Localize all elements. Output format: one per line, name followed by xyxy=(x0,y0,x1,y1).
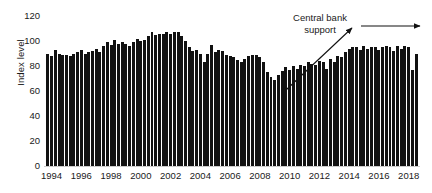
bar xyxy=(385,46,388,166)
bar xyxy=(400,49,403,167)
bar xyxy=(229,56,232,166)
x-axis-ticks: 1994199619982000200220042006200820102012… xyxy=(0,170,432,190)
bar xyxy=(299,65,302,166)
bar xyxy=(221,51,224,166)
bar xyxy=(184,41,187,166)
x-axis-tick-label: 2002 xyxy=(156,170,186,181)
bar xyxy=(292,66,295,166)
bar xyxy=(318,61,321,166)
bar xyxy=(158,34,161,167)
bar xyxy=(415,54,418,167)
bar xyxy=(340,57,343,166)
bar xyxy=(124,44,127,167)
bar xyxy=(366,49,369,167)
bar xyxy=(169,34,172,167)
bar xyxy=(151,32,154,166)
bar xyxy=(247,56,250,166)
bar xyxy=(407,47,410,166)
bar xyxy=(392,51,395,166)
bar xyxy=(50,56,53,166)
bar xyxy=(396,46,399,166)
y-axis-tick-label: 20 xyxy=(16,136,40,146)
bar xyxy=(266,72,269,166)
y-axis-tick-label: 80 xyxy=(16,61,40,71)
y-axis-tick-label: 40 xyxy=(16,111,40,121)
bar xyxy=(84,54,87,167)
bar xyxy=(165,32,168,166)
bar xyxy=(262,62,265,166)
bar xyxy=(314,65,317,166)
annotation-line-2: support xyxy=(277,24,363,36)
bar xyxy=(303,66,306,166)
bar xyxy=(154,35,157,166)
annotation-line-1: Central bank xyxy=(277,12,363,24)
bar xyxy=(61,55,64,166)
bar xyxy=(351,47,354,166)
bar xyxy=(325,69,328,167)
bar xyxy=(177,32,180,166)
bar xyxy=(243,59,246,167)
bar xyxy=(58,54,61,167)
bar xyxy=(87,52,90,166)
x-axis-tick-label: 1994 xyxy=(37,170,67,181)
annotation-label: Central bank support xyxy=(277,12,363,36)
bar xyxy=(273,80,276,166)
bar xyxy=(240,62,243,166)
bar xyxy=(72,54,75,167)
bar xyxy=(359,50,362,166)
bar xyxy=(106,42,109,166)
x-axis-tick-label: 2006 xyxy=(215,170,245,181)
bar xyxy=(322,62,325,166)
x-axis-tick-label: 2008 xyxy=(245,170,275,181)
bar xyxy=(95,49,98,167)
bar xyxy=(199,54,202,167)
bar xyxy=(214,52,217,166)
x-axis-tick-label: 2014 xyxy=(334,170,364,181)
bar xyxy=(288,70,291,166)
bar xyxy=(281,71,284,166)
bar xyxy=(117,44,120,167)
x-axis-line xyxy=(44,166,420,167)
bar xyxy=(251,55,254,166)
bar xyxy=(173,32,176,166)
bar xyxy=(217,50,220,166)
bar xyxy=(113,40,116,166)
bar xyxy=(389,47,392,166)
bar xyxy=(69,56,72,166)
y-axis-tick-label: 60 xyxy=(16,86,40,96)
bar xyxy=(232,57,235,166)
bar xyxy=(110,45,113,166)
y-axis-tick-label: 120 xyxy=(16,11,40,21)
bar xyxy=(139,41,142,166)
x-axis-tick-label: 1996 xyxy=(66,170,96,181)
bar xyxy=(132,42,135,166)
bar xyxy=(162,34,165,167)
bar xyxy=(381,47,384,166)
bar xyxy=(128,46,131,166)
bar xyxy=(91,51,94,166)
x-axis-tick-label: 1998 xyxy=(96,170,126,181)
bar xyxy=(188,47,191,166)
bar xyxy=(374,47,377,166)
bar xyxy=(195,50,198,166)
bar xyxy=(270,77,273,166)
bar xyxy=(258,57,261,166)
bar xyxy=(180,36,183,166)
bar xyxy=(307,62,310,166)
bar xyxy=(344,52,347,166)
bar xyxy=(329,59,332,167)
bar xyxy=(362,46,365,166)
bar xyxy=(284,67,287,166)
bar xyxy=(203,62,206,166)
bar xyxy=(370,47,373,166)
x-axis-tick-label: 2000 xyxy=(126,170,156,181)
bar xyxy=(147,36,150,166)
bar xyxy=(121,42,124,166)
bar xyxy=(277,75,280,166)
plot-area xyxy=(46,16,418,166)
bar xyxy=(76,52,79,166)
x-axis-tick-label: 2004 xyxy=(185,170,215,181)
bar xyxy=(403,46,406,166)
bar xyxy=(46,54,49,167)
bar xyxy=(225,55,228,166)
